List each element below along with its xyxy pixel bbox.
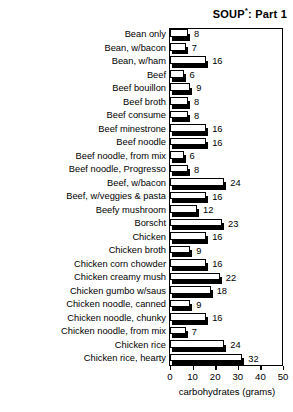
bar-face	[170, 83, 190, 91]
bar-row: Beefy mushroom12	[0, 204, 293, 218]
bar-row: Beef, w/veggies & pasta16	[0, 190, 293, 204]
x-axis-tick-label: 50	[268, 371, 293, 382]
bar-category-label: Beef, w/veggies & pasta	[6, 190, 166, 204]
bar-face	[170, 43, 186, 51]
bar	[170, 111, 191, 123]
bar	[170, 273, 223, 285]
bar-row: Beef broth8	[0, 96, 293, 110]
bar	[170, 43, 189, 55]
bar-face	[170, 232, 206, 240]
bar-face	[170, 165, 188, 173]
bar-row: Chicken creamy mush22	[0, 271, 293, 285]
bar-face	[170, 219, 222, 227]
bar-category-label: Beef	[6, 69, 166, 83]
bar-row: Chicken broth9	[0, 244, 293, 258]
x-axis-title: carbohydrates (grams)	[169, 386, 285, 397]
bar-face	[170, 29, 188, 37]
bar-value-label: 32	[248, 354, 258, 366]
bar	[170, 178, 227, 190]
bar-category-label: Chicken corn chowder	[6, 258, 166, 272]
x-axis-tick	[238, 366, 239, 370]
bar	[170, 165, 191, 177]
bar-category-label: Bean, w/bacon	[6, 42, 166, 56]
bar-face	[170, 111, 188, 119]
bar-row: Beef noodle, from mix6	[0, 150, 293, 164]
bar-row: Chicken gumbo w/saus18	[0, 285, 293, 299]
bar-category-label: Chicken rice, hearty	[6, 352, 166, 366]
bar-value-label: 8	[194, 97, 199, 109]
bar-face	[170, 300, 190, 308]
x-axis-tick	[283, 366, 284, 370]
bar	[170, 286, 214, 298]
bar-face	[170, 97, 188, 105]
bar	[170, 205, 200, 217]
bar-face	[170, 70, 184, 78]
chart-title-main: SOUP	[213, 8, 245, 20]
bar-face	[170, 327, 186, 335]
bar-face	[170, 354, 242, 362]
bar-value-label: 7	[192, 327, 197, 339]
bar	[170, 354, 245, 366]
bar-value-label: 7	[192, 43, 197, 55]
chart-page: SOUP*: Part 1 Bean only8Bean, w/bacon7Be…	[0, 0, 293, 412]
bar	[170, 138, 209, 150]
bar-row: Chicken rice, hearty32	[0, 352, 293, 366]
bar	[170, 246, 193, 258]
bar-value-label: 16	[212, 259, 222, 271]
bar-value-label: 18	[217, 286, 227, 298]
bar-value-label: 23	[228, 219, 238, 231]
bar-face	[170, 205, 197, 213]
bar-face	[170, 151, 184, 159]
bar-category-label: Bean, w/ham	[6, 55, 166, 69]
bar-row: Chicken noodle, chunky16	[0, 312, 293, 326]
bar-row: Beef noodle16	[0, 136, 293, 150]
bar-value-label: 9	[196, 300, 201, 312]
bar-category-label: Chicken noodle, from mix	[6, 325, 166, 339]
bar-value-label: 24	[230, 340, 240, 352]
bar-row: Beef noodle, Progresso8	[0, 163, 293, 177]
bar	[170, 70, 187, 82]
bar-row: Borscht23	[0, 217, 293, 231]
bar-category-label: Beef bouillon	[6, 82, 166, 96]
bar-category-label: Chicken rice	[6, 339, 166, 353]
bar-face	[170, 138, 206, 146]
bar-row: Beef, w/bacon24	[0, 177, 293, 191]
bar	[170, 259, 209, 271]
bar-value-label: 9	[196, 246, 201, 258]
bar-category-label: Beef consume	[6, 109, 166, 123]
bar-value-label: 16	[212, 232, 222, 244]
bar-row: Bean, w/ham16	[0, 55, 293, 69]
bar-category-label: Borscht	[6, 217, 166, 231]
chart-title-suffix: : Part 1	[248, 8, 287, 20]
bar	[170, 219, 225, 231]
bar-face	[170, 259, 206, 267]
bar-face	[170, 56, 206, 64]
bar-category-label: Beef noodle, Progresso	[6, 163, 166, 177]
bar-value-label: 9	[196, 83, 201, 95]
bar-category-label: Bean only	[6, 28, 166, 42]
bar-value-label: 16	[212, 138, 222, 150]
bar-face	[170, 178, 224, 186]
bar	[170, 151, 187, 163]
bar-value-label: 16	[212, 56, 222, 68]
bar	[170, 340, 227, 352]
bar-category-label: Beef minestrone	[6, 123, 166, 137]
bar	[170, 56, 209, 68]
bar-row: Chicken noodle, from mix7	[0, 325, 293, 339]
bar-category-label: Chicken noodle, canned	[6, 298, 166, 312]
bar-face	[170, 192, 206, 200]
bar-row: Beef minestrone16	[0, 123, 293, 137]
x-axis-tick	[170, 366, 171, 370]
bar-category-label: Beef broth	[6, 96, 166, 110]
chart-title: SOUP*: Part 1	[0, 6, 287, 20]
bar-category-label: Beef noodle, from mix	[6, 150, 166, 164]
bar	[170, 232, 209, 244]
bar	[170, 83, 193, 95]
bar	[170, 124, 209, 136]
x-axis: carbohydrates (grams) 01020304050	[169, 366, 285, 412]
bar-category-label: Chicken gumbo w/saus	[6, 285, 166, 299]
x-axis-tick	[193, 366, 194, 370]
bar-face	[170, 273, 220, 281]
bar-row: Beef6	[0, 69, 293, 83]
bar-value-label: 16	[212, 313, 222, 325]
